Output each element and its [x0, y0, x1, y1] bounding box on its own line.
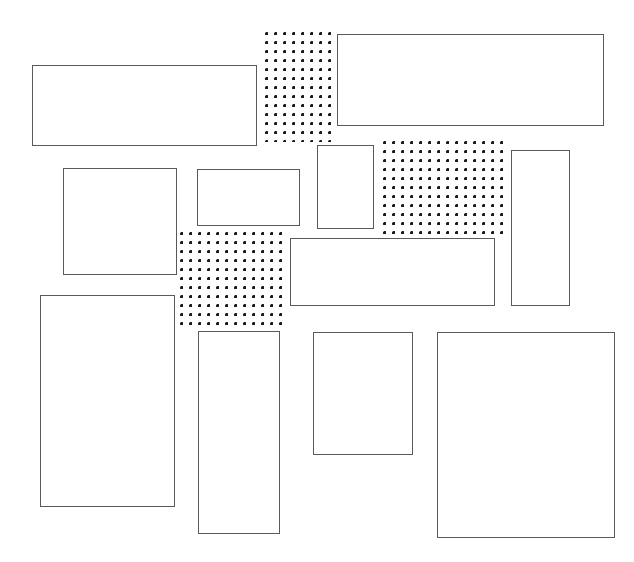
rectangle-mid-left-square: [63, 168, 177, 275]
dotted-region-right: [383, 141, 508, 234]
rectangle-bottom-narrow-tall: [198, 331, 280, 534]
rectangle-bottom-right-large: [437, 332, 615, 538]
rectangle-top-right: [337, 34, 604, 126]
rectangle-top-left: [32, 65, 257, 146]
dotted-region-top: [265, 32, 334, 142]
rectangle-bottom-left-tall: [40, 295, 175, 507]
rectangle-bottom-middle: [313, 332, 413, 455]
rectangle-small-vertical: [317, 145, 374, 229]
shape-canvas: [0, 0, 634, 562]
rectangle-mid-small: [197, 169, 300, 226]
dotted-region-middle: [180, 232, 285, 325]
rectangle-tall-right: [511, 150, 570, 306]
rectangle-middle-wide: [290, 238, 495, 306]
